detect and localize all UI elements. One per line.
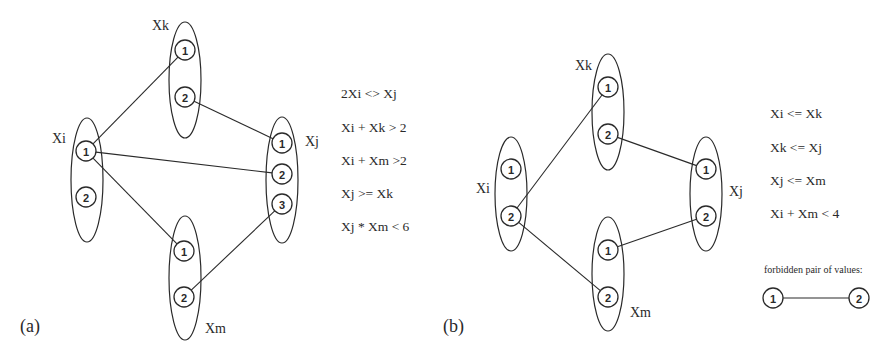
constraint-list: 2Xi <> XjXi + Xk > 2Xi + Xm >2Xj >= XkXj… (341, 86, 410, 234)
value-node: 2 (174, 287, 194, 307)
csp-diagram-canvas: XkXiXjXm121212312(a)2Xi <> XjXi + Xk > 2… (0, 0, 893, 356)
panel-b: XkXiXjXm12121212(b)Xi <= XkXk <= XjXj <=… (443, 54, 869, 337)
constraint: 2Xi <> Xj (341, 86, 397, 101)
value-label: 2 (605, 129, 611, 141)
forbidden-pair-edge (519, 222, 601, 290)
value-label: 1 (770, 293, 776, 305)
value-node: 1 (598, 240, 618, 260)
constraint: Xj * Xm < 6 (341, 219, 410, 234)
variable-domain-xm: Xm (592, 217, 651, 331)
value-node: 2 (696, 206, 716, 226)
forbidden-pair-edge (96, 152, 272, 173)
constraint: Xj >= Xk (341, 186, 393, 201)
value-node: 1 (174, 241, 194, 261)
forbidden-pair-edge (93, 57, 178, 144)
variable-label: Xi (52, 131, 66, 146)
value-node: 2 (175, 87, 195, 107)
variable-label: Xi (476, 181, 490, 196)
variable-domain-xi: Xi (476, 137, 527, 251)
value-node: 1 (76, 141, 96, 161)
value-label: 2 (181, 292, 187, 304)
panel-a: XkXiXjXm121212312(a)2Xi <> XjXi + Xk > 2… (20, 18, 410, 340)
variable-label: Xk (575, 58, 592, 73)
value-label: 1 (182, 45, 188, 57)
value-node: 3 (272, 194, 292, 214)
forbidden-pair-edge (194, 101, 273, 138)
forbidden-pair-edge (93, 158, 177, 244)
forbidden-pair-edge (191, 211, 274, 290)
variable-label: Xm (630, 305, 651, 320)
variable-domain-xm: Xm (169, 216, 226, 340)
value-node: 1 (696, 159, 716, 179)
legend-title: forbidden pair of values: (764, 264, 863, 275)
value-node: 2 (598, 287, 618, 307)
domain-ellipse (495, 137, 527, 251)
value-node: 2 (272, 164, 292, 184)
value-label: 1 (181, 246, 187, 258)
domain-ellipse (169, 216, 201, 340)
value-label: 1 (605, 245, 611, 257)
variable-label: Xk (152, 18, 169, 33)
variable-domain-xj: Xj (690, 137, 743, 251)
value-label: 1 (83, 146, 89, 158)
variable-domain-xk: Xk (152, 18, 201, 138)
value-label: 1 (279, 138, 285, 150)
constraint-list: Xi <= XkXk <= XjXj <= XmXi + Xm < 4 (770, 106, 839, 221)
panel-label: (b) (443, 316, 464, 337)
value-label: 2 (83, 192, 89, 204)
value-label: 1 (508, 164, 514, 176)
value-label: 2 (856, 293, 862, 305)
constraint: Xi + Xk > 2 (341, 120, 406, 135)
constraint: Xk <= Xj (770, 140, 822, 155)
legend-value-node: 1 (763, 288, 783, 308)
panel-label: (a) (20, 316, 40, 337)
domain-ellipse (690, 137, 722, 251)
forbidden-pair-edge (617, 219, 696, 246)
variable-domain-xk: Xk (575, 54, 624, 170)
variable-label: Xm (205, 321, 226, 336)
value-label: 2 (508, 211, 514, 223)
value-node: 1 (598, 77, 618, 97)
legend-value-node: 2 (849, 288, 869, 308)
value-node: 1 (175, 40, 195, 60)
value-node: 1 (501, 159, 521, 179)
constraint: Xj <= Xm (770, 173, 826, 188)
variable-domain-xi: Xi (52, 118, 103, 242)
value-label: 3 (279, 199, 285, 211)
value-label: 2 (703, 211, 709, 223)
constraint: Xi + Xm < 4 (770, 206, 839, 221)
domain-ellipse (592, 54, 624, 170)
constraint: Xi <= Xk (770, 106, 822, 121)
value-node: 2 (76, 187, 96, 207)
value-label: 2 (279, 169, 285, 181)
value-node: 2 (598, 124, 618, 144)
constraint: Xi + Xm >2 (341, 153, 407, 168)
domain-ellipse (592, 217, 624, 331)
forbidden-pair-edge (617, 137, 696, 165)
legend: forbidden pair of values:12 (763, 264, 869, 308)
variable-label: Xj (305, 134, 319, 149)
value-label: 2 (182, 92, 188, 104)
domain-ellipse (71, 118, 103, 242)
variable-label: Xj (729, 184, 743, 199)
forbidden-pair-edge (517, 95, 602, 208)
value-node: 1 (272, 133, 292, 153)
value-label: 2 (605, 292, 611, 304)
value-label: 1 (703, 164, 709, 176)
value-label: 1 (605, 82, 611, 94)
value-node: 2 (501, 206, 521, 226)
